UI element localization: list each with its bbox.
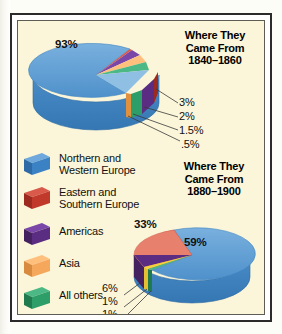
pie-1880-asia-side xyxy=(144,267,148,291)
callout-1880-6pct: 6% xyxy=(102,282,118,294)
legend-label-northern-line1: Northern and xyxy=(59,152,135,164)
legend-swatch-eastern-southern-europe xyxy=(22,185,52,211)
title-1840-line3: 1840–1860 xyxy=(168,54,262,67)
pie-1880-label-33: 33% xyxy=(134,218,156,230)
legend-item-all-others[interactable]: All others xyxy=(22,285,103,311)
title-1840-line2: Came From xyxy=(168,42,262,55)
callout-1840-05pct: .5% xyxy=(181,138,199,150)
legend-swatch-asia xyxy=(22,253,52,279)
title-1840-line1: Where They xyxy=(168,29,262,42)
legend-item-northern-western-europe[interactable]: Northern and Western Europe xyxy=(22,151,135,177)
pie-chart-1880-1900 xyxy=(104,197,264,314)
legend-label-northern-line2: Western Europe xyxy=(59,164,135,176)
legend-swatch-americas xyxy=(22,221,52,247)
legend-item-asia[interactable]: Asia xyxy=(22,253,80,279)
legend-label-americas: Americas xyxy=(59,225,103,237)
legend-swatch-all-others xyxy=(22,285,52,311)
callout-1840-15pct: 1.5% xyxy=(179,124,203,136)
legend-label-all-others: All others xyxy=(59,289,103,301)
pie-1880-allothers-side xyxy=(148,269,152,292)
page-edge-shading xyxy=(0,0,10,334)
pie-1880-label-59: 59% xyxy=(184,236,206,248)
callout-1840-3pct: 3% xyxy=(179,96,195,108)
title-1880-1900: Where They Came From 1880–1900 xyxy=(166,160,262,198)
pie-1840-allothers-side xyxy=(131,90,142,118)
legend-label-asia: Asia xyxy=(59,257,80,269)
immigration-origins-figure: 93% Where They Came From 1840–1860 3% 2%… xyxy=(0,0,282,334)
pie-1840-label-93: 93% xyxy=(55,38,77,50)
title-1840-1860: Where They Came From 1840–1860 xyxy=(168,29,262,67)
callout-1840-2pct: 2% xyxy=(179,110,195,122)
callout-1880-1pct-a: 1% xyxy=(102,295,118,307)
legend-swatch-northern-western-europe xyxy=(22,151,52,177)
legend-item-americas[interactable]: Americas xyxy=(22,221,103,247)
figure-content: 93% Where They Came From 1840–1860 3% 2%… xyxy=(18,21,264,314)
callout-1880-1pct-b: 1% xyxy=(102,308,118,314)
title-1880-line1: Where They xyxy=(166,160,262,173)
title-1880-line3: 1880–1900 xyxy=(166,185,262,198)
title-1880-line2: Came From xyxy=(166,173,262,186)
pie-1840-asia-side xyxy=(126,93,131,118)
